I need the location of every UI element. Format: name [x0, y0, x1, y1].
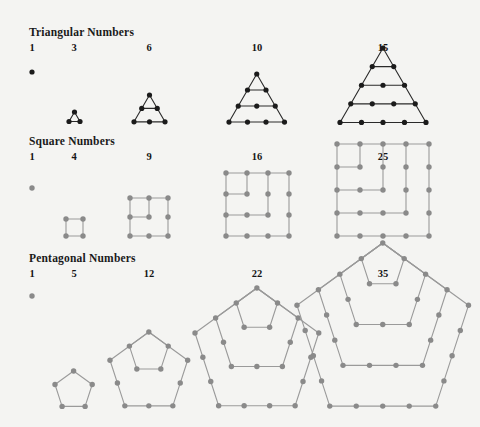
triangular-figure-10 [221, 66, 293, 130]
figure-dot [441, 378, 446, 383]
figure-dot [242, 403, 247, 408]
square-figure-1 [26, 182, 38, 194]
figure-dot [77, 119, 82, 124]
figure-dot [192, 331, 197, 336]
figure-dot [286, 212, 291, 217]
figure-dot [357, 141, 362, 146]
figure-dot [407, 403, 412, 408]
figure-dot [146, 119, 151, 124]
figure-dot [348, 101, 353, 106]
figure-dot [166, 344, 171, 349]
figure-dot [426, 141, 431, 146]
figure-dot [380, 119, 385, 124]
section-heading-square: Square Numbers [29, 135, 115, 147]
figure-dot [403, 187, 408, 192]
figure-dot [380, 403, 385, 408]
figure-dot [146, 329, 151, 334]
figure-dot [139, 106, 144, 111]
figure-dot [273, 103, 278, 108]
figure-dot [254, 71, 259, 76]
figure-dot [319, 378, 324, 383]
figure-dot [334, 187, 339, 192]
figure-dot [337, 271, 342, 276]
figure-dot [380, 82, 385, 87]
figure-dot [413, 101, 418, 106]
figure-edge [257, 74, 285, 122]
figure-dot [245, 87, 250, 92]
figure-dot [391, 64, 396, 69]
figure-dot [63, 233, 68, 238]
figure-dot [426, 164, 431, 169]
figure-dot [402, 119, 407, 124]
figure-dot [146, 93, 151, 98]
figure-dot [229, 364, 234, 369]
figure-dot [236, 103, 241, 108]
figure-dot [223, 233, 228, 238]
figure-dot [334, 164, 339, 169]
figure-dot [146, 214, 151, 219]
pentagonal-figure-5 [47, 363, 100, 414]
figure-dot [265, 233, 270, 238]
section-heading-pentagonal: Pentagonal Numbers [29, 252, 136, 264]
square-figure-9 [122, 190, 176, 244]
figure-dot [334, 141, 339, 146]
figure-dot [380, 240, 385, 245]
figure-dot [466, 302, 471, 307]
figure-dot [213, 316, 218, 321]
figure-dot [154, 106, 159, 111]
count-label-square-2: 9 [146, 151, 151, 162]
figure-dot [227, 119, 232, 124]
figure-dot [242, 325, 247, 330]
figure-dot [234, 301, 239, 306]
figure-dot [458, 328, 463, 333]
figure-dot [80, 216, 85, 221]
pentagonal-figure-12 [102, 324, 196, 414]
figure-dot [146, 403, 151, 408]
section-heading-triangular: Triangular Numbers [29, 26, 134, 38]
figure-dot [341, 363, 346, 368]
figure-dot [122, 403, 127, 408]
figure-dot [367, 281, 372, 286]
figure-dot [53, 381, 58, 386]
figure-dot [359, 82, 364, 87]
figure-dot [146, 233, 151, 238]
count-label-triangular-1: 3 [71, 42, 76, 53]
figure-dot [426, 187, 431, 192]
figure-dot [223, 191, 228, 196]
triangular-figure-15 [332, 40, 434, 130]
count-label-triangular-3: 10 [252, 42, 263, 53]
figure-dot [221, 340, 226, 345]
figure-edge [55, 384, 62, 406]
figure-dot [394, 363, 399, 368]
figure-dot [71, 110, 76, 115]
figure-dot [423, 271, 428, 276]
figure-edge [270, 303, 278, 327]
figure-dot [420, 363, 425, 368]
square-figure-16 [218, 165, 297, 244]
figure-dot [346, 297, 351, 302]
figure-dot [127, 195, 132, 200]
figure-dot [60, 403, 65, 408]
figure-dot [357, 164, 362, 169]
figure-dot [286, 191, 291, 196]
count-label-triangular-0: 1 [29, 42, 34, 53]
figure-dot [391, 101, 396, 106]
figure-dot [359, 119, 364, 124]
figure-dot [265, 212, 270, 217]
figure-dot [403, 141, 408, 146]
figure-dot [115, 380, 120, 385]
pentagonal-figure-35 [289, 235, 477, 414]
figure-dot [282, 119, 287, 124]
figure-dot [264, 87, 269, 92]
figure-edge [195, 333, 219, 406]
figure-dot [244, 233, 249, 238]
figure-dot [357, 210, 362, 215]
figure-dot [407, 322, 412, 327]
figure-dot [208, 379, 213, 384]
figure-dot [428, 337, 433, 342]
figure-dot [29, 293, 34, 298]
figure-dot [286, 170, 291, 175]
figure-dot [223, 212, 228, 217]
figure-dot [267, 325, 272, 330]
figure-dot [354, 403, 359, 408]
